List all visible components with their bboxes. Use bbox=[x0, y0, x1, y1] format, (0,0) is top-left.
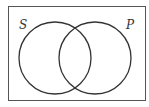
set-s-label: S bbox=[19, 18, 27, 32]
set-s-circle bbox=[19, 22, 91, 94]
set-p-label: P bbox=[125, 18, 135, 32]
venn-diagram: S P bbox=[0, 0, 149, 107]
set-p-circle bbox=[59, 22, 131, 94]
